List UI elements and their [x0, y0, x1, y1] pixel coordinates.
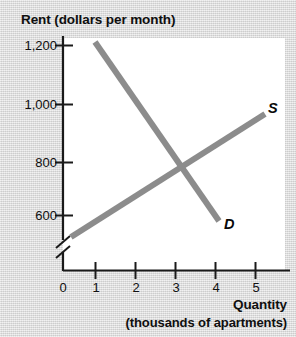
x-tick-label-2: 2	[124, 280, 148, 295]
y-tick-label-1200: 1,200	[5, 38, 57, 53]
x-tick-label-3: 3	[164, 280, 188, 295]
supply-curve	[71, 114, 265, 237]
demand-curve-label: D	[224, 216, 234, 232]
x-tick-label-5: 5	[244, 280, 268, 295]
supply-demand-figure: Rent (dollars per month) 1,200 1,000 800…	[0, 0, 296, 337]
y-tick-label-600: 600	[5, 208, 57, 223]
y-tick-label-800: 800	[5, 155, 57, 170]
y-tick-label-1000: 1,000	[5, 97, 57, 112]
demand-curve	[95, 42, 219, 221]
x-axis-title: Quantity	[233, 297, 287, 312]
x-tick-label-0: 0	[51, 280, 75, 295]
x-tick-label-4: 4	[204, 280, 228, 295]
x-tick-label-1: 1	[84, 280, 108, 295]
supply-curve-label: S	[268, 100, 278, 116]
x-axis-subtitle: (thousands of apartments)	[126, 315, 287, 330]
